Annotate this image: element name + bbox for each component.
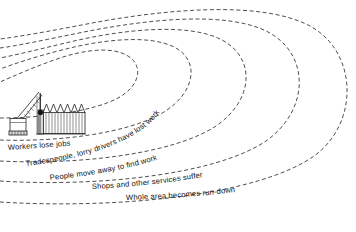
- ripple-diagram-canvas: Workers lose jobs Tradespeople, lorry dr…: [0, 0, 356, 232]
- demolition-illustration: [0, 0, 356, 232]
- crane-boom-upper: [14, 92, 39, 122]
- crane-cab: [10, 119, 26, 132]
- wrecking-ball-icon: [38, 110, 43, 115]
- factory-roof-sawtooth: [43, 104, 85, 113]
- factory-icon: [36, 104, 86, 134]
